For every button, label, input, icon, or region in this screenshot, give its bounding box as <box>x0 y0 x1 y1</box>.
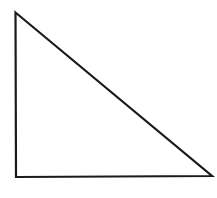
triangle-diagram <box>0 0 217 198</box>
right-triangle <box>16 13 213 178</box>
